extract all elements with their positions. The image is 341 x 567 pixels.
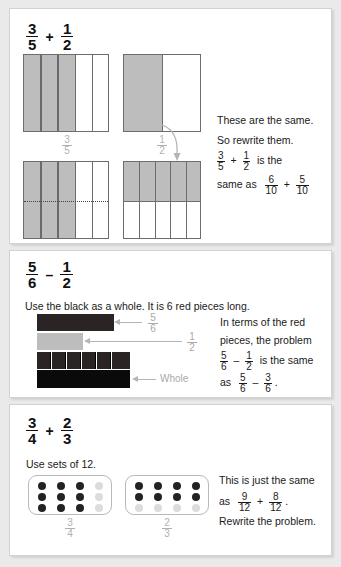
dotted-split-line [24, 201, 108, 202]
inline-fraction-five-sixths-2: 5 6 [239, 373, 247, 394]
label-two-thirds: 2 3 [158, 518, 176, 539]
divider [75, 55, 76, 131]
inline-operator-minus-2: – [250, 376, 262, 388]
arrow-line-five-sixths [120, 322, 142, 323]
panel2-text-line-1: In terms of the red [220, 315, 305, 330]
arrow-line-one-half [90, 341, 182, 342]
divider [139, 162, 140, 238]
panel2-equation-head: as [220, 376, 231, 388]
divider [40, 162, 42, 238]
divider [75, 162, 76, 238]
inline-fraction-five-tenths: 5 10 [296, 175, 309, 196]
dot-set-two-thirds [125, 475, 209, 515]
panel1-equation-line-1: 3 5 + 1 2 is the [217, 151, 282, 172]
arrow-head-icon [132, 376, 138, 382]
dot [192, 504, 200, 512]
label-three-fifths: 3 5 [56, 135, 78, 156]
inline-operator-plus: + [254, 495, 266, 507]
red-piece [52, 352, 66, 369]
panel2-period: . [275, 376, 278, 388]
label-one-half: 1 2 [185, 332, 199, 353]
arrow-line-whole [138, 379, 156, 380]
dot [95, 482, 103, 490]
inline-operator-plus-2: + [281, 178, 293, 190]
worksheet-page: 3 5 + 1 2 3 5 [0, 0, 341, 567]
rod-six-red-pieces [37, 352, 130, 369]
divider [92, 162, 93, 238]
shaded-region [24, 55, 75, 131]
inline-fraction-three-fifths: 3 5 [217, 151, 225, 172]
dot [76, 482, 84, 490]
panel3-headline: 3 4 + 2 3 [26, 415, 73, 446]
panel2-text-line-2: pieces, the problem [220, 333, 312, 348]
panel3-equation-head: as [219, 495, 230, 507]
arrow-head-icon [84, 338, 90, 344]
shaded-row [124, 162, 200, 201]
label-whole: Whole [160, 373, 188, 384]
dot [154, 504, 162, 512]
headline-operator: – [43, 267, 57, 283]
panel1-text-line-1: These are the same. [217, 113, 313, 128]
shaded-region [124, 55, 162, 131]
dot [38, 504, 46, 512]
red-piece [112, 352, 130, 369]
bar-diagram-six-tenths [23, 161, 109, 239]
panel3-instruction: Use sets of 12. [26, 457, 96, 472]
inline-fraction-one-half: 1 2 [245, 351, 253, 372]
panel2-headline: 5 6 – 1 2 [26, 259, 73, 290]
rod-whole [37, 370, 130, 388]
dot [173, 493, 181, 501]
divider [155, 162, 156, 238]
divider [40, 55, 42, 131]
divider [57, 55, 59, 131]
label-three-fourths: 3 4 [61, 518, 79, 539]
dot [135, 493, 143, 501]
dot [154, 493, 162, 501]
shaded-region [24, 162, 75, 238]
panel2-equation-line-2: as 5 6 – 3 6 . [220, 373, 278, 394]
inline-operator-plus: + [227, 154, 239, 166]
dot [192, 493, 200, 501]
dot [57, 504, 65, 512]
panel1-equation-tail: is the [253, 154, 282, 166]
divider [162, 55, 163, 131]
rod-diagram [37, 314, 147, 389]
label-five-sixths: 5 6 [146, 313, 160, 334]
inline-operator-minus: – [230, 354, 242, 366]
dot [95, 504, 103, 512]
dot [192, 482, 200, 490]
dot [135, 482, 143, 490]
rod-five-sixths [37, 314, 114, 331]
bar-diagram-one-half [123, 54, 201, 132]
inline-fraction-nine-twelfths: 9 12 [238, 492, 251, 513]
headline-operator: + [43, 29, 57, 45]
dot [57, 482, 65, 490]
inline-fraction-five-sixths: 5 6 [220, 351, 228, 372]
dot [173, 504, 181, 512]
arrow-head-icon [114, 319, 120, 325]
divider [57, 162, 59, 238]
panel1-text-line-2: So rewrite them. [217, 133, 293, 148]
red-piece [97, 352, 111, 369]
bar-diagram-five-tenths [123, 161, 201, 239]
inline-fraction-three-sixths: 3 6 [264, 373, 272, 394]
headline-fraction-right: 2 3 [61, 415, 73, 446]
headline-fraction-left: 3 4 [26, 415, 38, 446]
panel-fraction-addition-fourths-thirds: 3 4 + 2 3 Use sets of 12. [9, 404, 332, 556]
inline-fraction-six-tenths: 6 10 [265, 175, 278, 196]
divider [170, 162, 171, 238]
dot [38, 493, 46, 501]
panel3-period: . [285, 495, 288, 507]
headline-operator: + [43, 423, 57, 439]
rod-one-half [37, 333, 83, 350]
inline-fraction-one-half: 1 2 [243, 151, 251, 172]
dot [95, 493, 103, 501]
inline-fraction-eight-twelfths: 8 12 [269, 492, 282, 513]
headline-fraction-left: 5 6 [26, 259, 38, 290]
dot [154, 482, 162, 490]
divider [124, 201, 200, 202]
panel1-equation-head: same as [217, 178, 257, 190]
panel3-equation-line: as 9 12 + 8 12 . [219, 492, 288, 513]
headline-fraction-right: 1 2 [61, 21, 73, 52]
red-piece [82, 352, 96, 369]
